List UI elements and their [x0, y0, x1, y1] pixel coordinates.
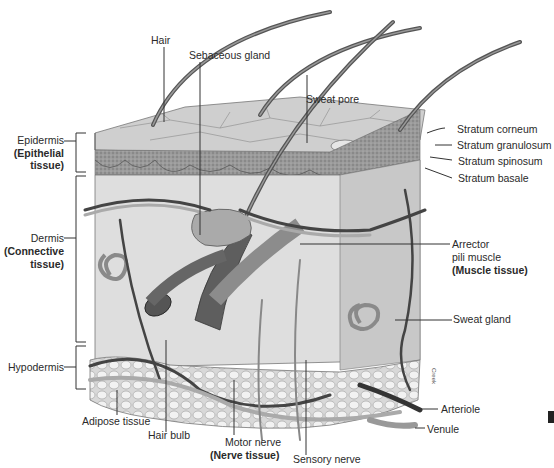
label-epidermis: Epidermis	[2, 134, 64, 146]
svg-text:Creek: Creek	[431, 368, 437, 385]
label-stratum-spinosum: Stratum spinosum	[458, 155, 543, 167]
venule-vessel	[370, 420, 415, 426]
label-venule: Venule	[427, 423, 459, 435]
skin-diagram-illustration: Creek	[0, 0, 554, 468]
label-muscle-tissue: (Muscle tissue)	[452, 264, 528, 276]
label-epithelial-tissue-1: (Epithelial	[2, 147, 64, 159]
label-hair-bulb: Hair bulb	[148, 429, 190, 441]
label-sweat-gland: Sweat gland	[453, 313, 511, 325]
label-connective-tissue-2: tissue)	[2, 258, 64, 270]
label-sensory-nerve: Sensory nerve	[293, 453, 361, 465]
label-epithelial-tissue-2: tissue)	[2, 159, 64, 171]
label-arrector: Arrector	[452, 238, 489, 250]
label-connective-tissue-1: (Connective	[0, 245, 64, 257]
label-hypodermis: Hypodermis	[0, 361, 64, 373]
label-hair: Hair	[151, 34, 170, 46]
label-motor-nerve: Motor nerve	[225, 436, 281, 448]
label-arteriole: Arteriole	[441, 403, 480, 415]
label-stratum-basale: Stratum basale	[458, 172, 529, 184]
label-sebaceous-gland: Sebaceous gland	[189, 49, 270, 61]
label-nerve-tissue: (Nerve tissue)	[210, 449, 279, 461]
label-pili-muscle: pili muscle	[452, 251, 501, 263]
label-stratum-corneum: Stratum corneum	[457, 123, 538, 135]
cropped-caption-fragment	[548, 411, 554, 423]
label-dermis: Dermis	[2, 232, 64, 244]
label-stratum-granulosum: Stratum granulosum	[457, 139, 552, 151]
label-adipose-tissue: Adipose tissue	[82, 415, 150, 427]
label-sweat-pore: Sweat pore	[306, 93, 359, 105]
